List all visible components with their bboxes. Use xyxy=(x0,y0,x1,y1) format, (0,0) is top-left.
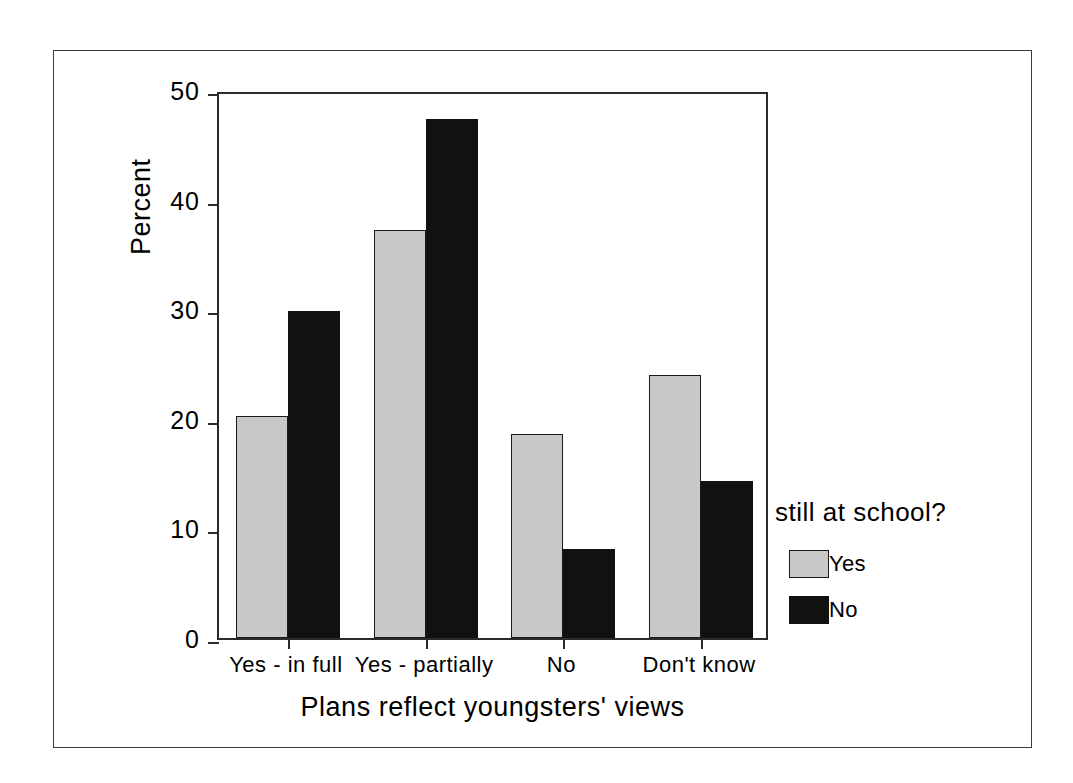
bar-yes-1 xyxy=(374,230,426,638)
x-axis-tick xyxy=(288,638,290,649)
y-axis-tick-label: 40 xyxy=(150,189,200,214)
legend-title: still at school? xyxy=(775,497,1025,528)
legend: still at school? YesNo xyxy=(775,497,1025,642)
x-axis-tick xyxy=(426,638,428,649)
x-axis-tick-label: Don't know xyxy=(630,652,768,678)
x-axis-tick-label: Yes - in full xyxy=(217,652,355,678)
chart-figure: 01020304050 Percent Yes - in fullYes - p… xyxy=(0,0,1073,783)
y-axis-tick xyxy=(208,204,219,206)
y-axis-tick-labels: 01020304050 xyxy=(150,92,200,640)
y-axis-tick-label: 10 xyxy=(150,517,200,542)
y-axis-tick-label: 20 xyxy=(150,408,200,433)
y-axis-tick-label: 0 xyxy=(150,627,200,652)
x-axis-title: Plans reflect youngsters' views xyxy=(217,692,768,723)
y-axis-tick-label: 50 xyxy=(150,79,200,104)
bar-yes-0 xyxy=(236,416,288,638)
y-axis-tick xyxy=(208,642,219,644)
bar-yes-2 xyxy=(511,434,563,638)
legend-entries: YesNo xyxy=(775,550,1025,624)
y-axis-tick xyxy=(208,423,219,425)
legend-item-yes[interactable]: Yes xyxy=(789,550,1025,578)
bar-no-2 xyxy=(563,549,615,638)
y-axis-tick xyxy=(208,532,219,534)
x-axis-tick-label: Yes - partially xyxy=(355,652,493,678)
bar-no-3 xyxy=(701,481,753,638)
bar-no-0 xyxy=(288,311,340,638)
legend-label: No xyxy=(829,599,858,621)
y-axis-tick-label: 30 xyxy=(150,298,200,323)
legend-item-no[interactable]: No xyxy=(789,596,1025,624)
y-axis-tick xyxy=(208,313,219,315)
y-axis-tick xyxy=(208,94,219,96)
bar-yes-3 xyxy=(649,375,701,638)
plot-area xyxy=(217,92,768,640)
x-axis-tick-label: No xyxy=(493,652,631,678)
legend-label: Yes xyxy=(829,553,866,575)
legend-swatch-no xyxy=(789,596,829,624)
x-axis-tick-labels: Yes - in fullYes - partiallyNoDon't know xyxy=(217,652,768,686)
x-axis-tick xyxy=(701,638,703,649)
legend-swatch-yes xyxy=(789,550,829,578)
x-axis-tick xyxy=(563,638,565,649)
y-axis-title: Percent xyxy=(126,158,157,255)
bar-no-1 xyxy=(426,119,478,639)
